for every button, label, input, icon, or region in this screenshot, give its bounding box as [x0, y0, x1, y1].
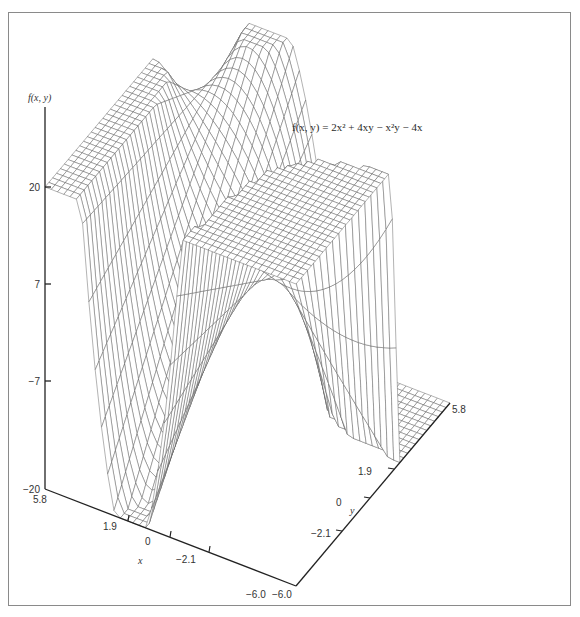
- equation-annotation: f(x, y) = 2x² + 4xy − x²y − 4x: [292, 121, 423, 134]
- y-tick-label: −6.0: [272, 589, 292, 600]
- y-axis-title: y: [349, 505, 355, 516]
- y-tick-label: −2.1: [311, 528, 331, 539]
- x-tick-label: −2.1: [176, 554, 196, 565]
- z-tick-label: −7: [29, 376, 41, 387]
- y-ticks: [336, 468, 394, 531]
- x-tick-label: −6.0: [246, 589, 266, 600]
- y-tick-label: 1.9: [358, 466, 372, 477]
- x-tick-label: 5.8: [33, 494, 47, 505]
- wireframe-surface: [45, 23, 450, 527]
- x-tick-label: 0: [145, 536, 151, 547]
- y-tick-label: 5.8: [452, 404, 466, 415]
- x-tick-label: 1.9: [103, 521, 117, 532]
- z-ticks: [45, 187, 51, 381]
- z-axis-title: f(x, y): [28, 92, 52, 104]
- y-tick-label: 0: [336, 497, 342, 508]
- surface-plot: 20 7 −7 −20 5.8 1.9 0 −2.1 −6.0 −6.0 −2.…: [0, 0, 580, 617]
- z-tick-label: 20: [29, 182, 41, 193]
- x-axis-line: [45, 489, 296, 586]
- x-axis-title: x: [137, 555, 143, 566]
- z-tick-label: 7: [34, 279, 40, 290]
